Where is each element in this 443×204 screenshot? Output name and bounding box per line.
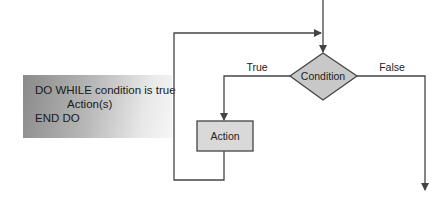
flowchart: Condition Action True False: [0, 0, 443, 204]
loop-back-arrow: [174, 33, 321, 180]
false-label: False: [379, 61, 405, 73]
true-branch-arrow: [224, 76, 290, 120]
false-branch-arrow: [357, 76, 425, 190]
true-label: True: [246, 61, 267, 73]
process-label: Action: [210, 130, 239, 142]
decision-label: Condition: [301, 70, 346, 82]
